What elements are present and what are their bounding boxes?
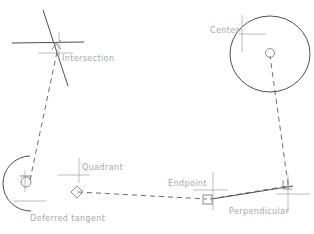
dashed-endpoint-to-perpendicular bbox=[210, 186, 288, 199]
crosshair-group bbox=[14, 15, 310, 212]
dashed-perpendicular-to-center bbox=[270, 56, 288, 184]
dashed-intersection-to-tangent bbox=[30, 52, 57, 180]
geometry-group bbox=[3, 10, 310, 211]
endpoint-marker-icon bbox=[203, 195, 212, 204]
label-intersection: Intersection bbox=[62, 55, 114, 63]
intersection-marker-icon bbox=[52, 40, 61, 49]
cad-drawing bbox=[0, 0, 314, 234]
arc-bottom-left bbox=[3, 156, 31, 211]
dashed-quadrant-to-endpoint bbox=[78, 192, 207, 199]
horizontal-line bbox=[12, 42, 84, 43]
perpendicular-line bbox=[212, 186, 293, 199]
diagram-canvas: Intersection Center Quadrant Deferred ta… bbox=[0, 0, 314, 234]
label-deferred-tangent: Deferred tangent bbox=[30, 215, 105, 223]
label-quadrant: Quadrant bbox=[82, 164, 123, 172]
dashed-polyline-group bbox=[30, 52, 288, 199]
label-endpoint: Endpoint bbox=[168, 180, 207, 188]
label-center: Center bbox=[210, 27, 239, 35]
diagonal-line bbox=[43, 10, 68, 86]
label-perpendicular: Perpendicular bbox=[229, 208, 289, 216]
